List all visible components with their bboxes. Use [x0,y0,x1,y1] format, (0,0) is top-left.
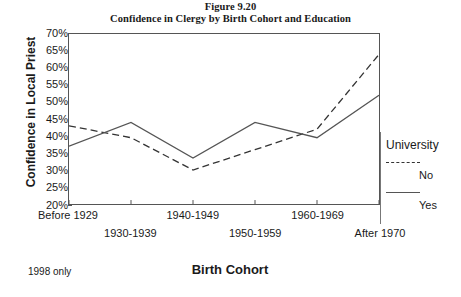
legend-label-yes: Yes [419,199,437,211]
x-tick-label: 1940-1949 [166,210,219,221]
series-line-yes [69,95,379,158]
plot-area [68,33,380,205]
series-layer [69,54,379,204]
x-tick-label: Before 1929 [38,210,98,221]
x-tick-label: 1960-1969 [291,210,344,221]
x-tick-label: 1950-1959 [229,228,282,239]
y-tick-label: 60% [22,62,68,73]
legend-sample-no [386,162,420,163]
y-tick-label: 35% [22,148,68,159]
figure-title-line-1: Figure 9.20 [0,1,461,13]
y-tick-label: 30% [22,165,68,176]
legend: University No Yes [386,138,460,224]
y-tick-label: 65% [22,45,68,56]
y-axis-tick-labels: 70%65%60%55%50%45%40%35%30%25%20% [16,33,68,205]
legend-label-no: No [419,169,433,181]
legend-sample-yes [386,192,420,193]
legend-divider [380,132,381,224]
plot-svg [69,34,379,204]
y-tick-label: 55% [22,79,68,90]
figure-title-line-2: Confidence in Clergy by Birth Cohort and… [0,13,461,25]
y-tick-label: 70% [22,28,68,39]
figure-title: Figure 9.20 Confidence in Clergy by Birt… [0,1,461,26]
x-tick-label: After 1970 [355,228,406,239]
series-line-no [69,54,379,170]
y-tick-label: 45% [22,114,68,125]
y-tick-label: 50% [22,96,68,107]
x-tick-label: 1930-1939 [104,228,157,239]
x-axis-title: Birth Cohort [150,262,310,277]
legend-title: University [386,138,439,152]
y-tick-label: 40% [22,131,68,142]
figure-container: Figure 9.20 Confidence in Clergy by Birt… [0,0,461,297]
y-tick-label: 25% [22,182,68,193]
figure-note: 1998 only [28,266,71,277]
